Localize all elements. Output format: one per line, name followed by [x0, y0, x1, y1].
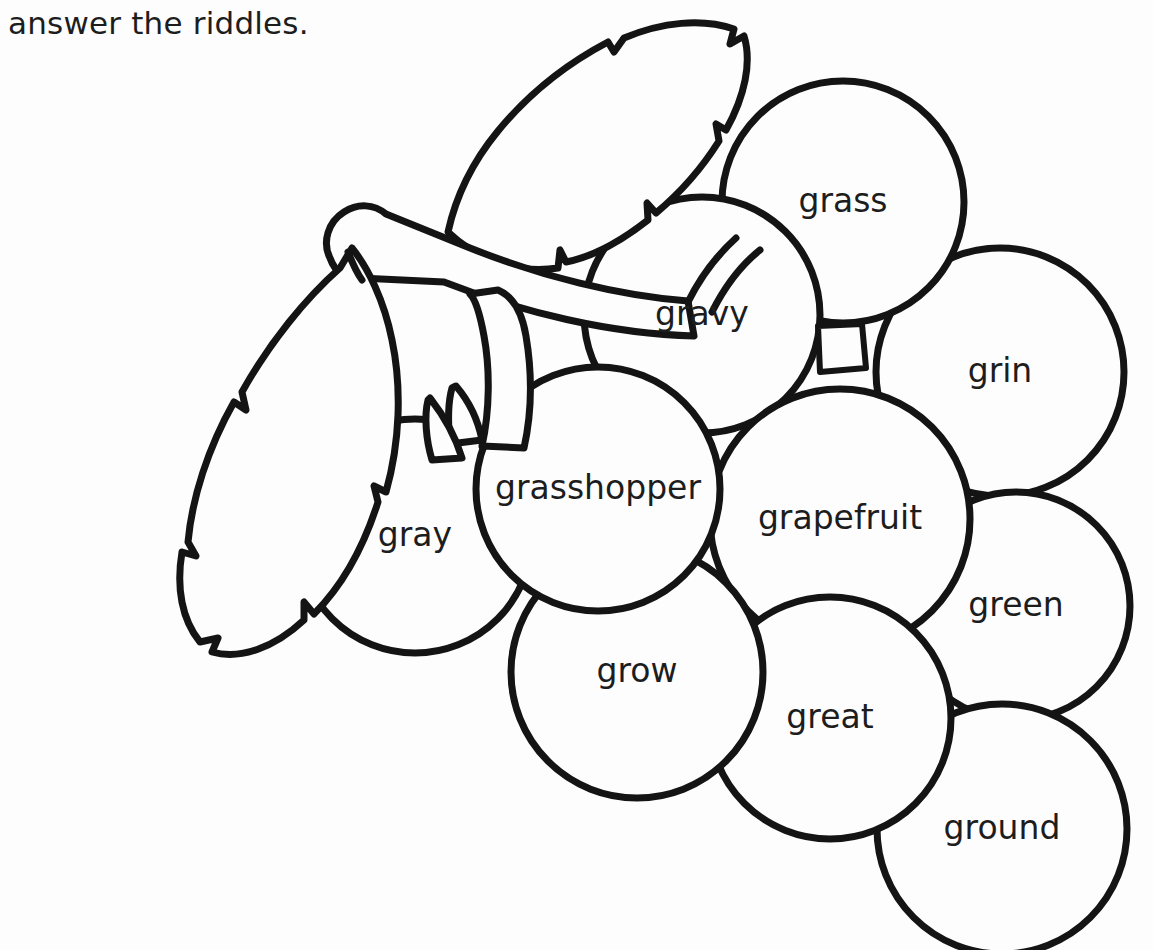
- grape-label-green: green: [968, 585, 1063, 624]
- grape-label-great: great: [786, 697, 873, 736]
- grape-label-gray: gray: [378, 515, 452, 554]
- grape-label-grin: grin: [968, 351, 1033, 390]
- grape-label-ground: ground: [944, 808, 1061, 847]
- grape-label-grapefruit: grapefruit: [758, 498, 922, 537]
- grape-label-gravy: gravy: [655, 294, 749, 333]
- grape-label-grass: grass: [798, 181, 887, 220]
- grape-label-grow: grow: [597, 651, 678, 690]
- grape-cluster-illustration: grass gravy grin gray grasshopper grapef…: [0, 0, 1153, 950]
- grape-label-grasshopper: grasshopper: [495, 468, 701, 507]
- grape-connector-stem: [818, 324, 866, 372]
- worksheet-page: answer the riddles.: [0, 0, 1153, 950]
